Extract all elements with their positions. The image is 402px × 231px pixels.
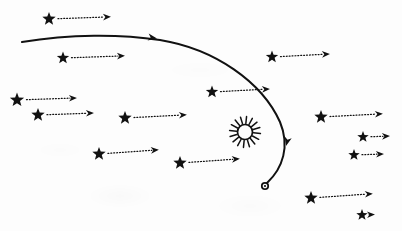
star-marker bbox=[173, 156, 240, 169]
star-glyph bbox=[31, 108, 44, 121]
star-marker bbox=[266, 51, 330, 63]
proper-motion-arrow bbox=[71, 53, 125, 61]
star-glyph bbox=[357, 131, 368, 142]
proper-motion-arrowhead bbox=[86, 110, 94, 117]
proper-motion-arrow bbox=[47, 110, 94, 118]
sun-ray bbox=[247, 140, 249, 147]
star-marker bbox=[348, 149, 384, 160]
proper-motion-arrowhead bbox=[365, 190, 373, 197]
proper-motion-dotted-line bbox=[330, 114, 376, 116]
star-glyph bbox=[356, 209, 367, 220]
sun-ray bbox=[249, 118, 252, 124]
proper-motion-arrow bbox=[280, 51, 330, 60]
sun-ray bbox=[250, 139, 254, 144]
star-marker bbox=[356, 209, 375, 220]
proper-motion-arrow bbox=[189, 156, 240, 166]
sun-ray bbox=[238, 139, 241, 145]
comet-nucleus bbox=[262, 183, 268, 189]
sun-core bbox=[238, 125, 253, 140]
proper-motion-dotted-line bbox=[362, 154, 377, 155]
proper-motion-arrowhead bbox=[375, 110, 383, 117]
sun-ray bbox=[252, 122, 257, 126]
proper-motion-dotted-line bbox=[26, 98, 69, 100]
proper-motion-dotted-line bbox=[71, 56, 117, 58]
star-glyph bbox=[10, 93, 24, 107]
sun-ray bbox=[235, 120, 239, 125]
star-glyph bbox=[348, 149, 359, 160]
proper-motion-arrow bbox=[362, 151, 384, 158]
star-glyph bbox=[206, 86, 218, 98]
proper-motion-arrowhead bbox=[322, 51, 330, 58]
proper-motion-dotted-line bbox=[280, 54, 322, 56]
star-marker bbox=[42, 12, 111, 25]
proper-motion-arrowhead bbox=[179, 111, 187, 118]
star-marker bbox=[357, 131, 390, 142]
proper-motion-dotted-line bbox=[189, 159, 233, 162]
proper-motion-arrow bbox=[367, 211, 375, 218]
star-glyph bbox=[314, 110, 327, 123]
proper-motion-arrow bbox=[26, 95, 77, 103]
comet-trajectory-diagram bbox=[0, 0, 402, 231]
proper-motion-arrowhead bbox=[262, 86, 270, 93]
star-glyph bbox=[57, 52, 69, 64]
star-glyph bbox=[266, 51, 278, 63]
sun-ray bbox=[243, 140, 244, 147]
star-glyph bbox=[92, 147, 105, 160]
sun-ray bbox=[233, 137, 238, 141]
star-marker bbox=[304, 190, 373, 203]
sun-ray bbox=[230, 134, 237, 136]
proper-motion-arrow bbox=[330, 110, 383, 119]
star-marker bbox=[10, 93, 77, 107]
proper-motion-arrow bbox=[134, 111, 187, 120]
sun-ray bbox=[230, 130, 237, 131]
star-marker bbox=[118, 111, 187, 124]
sun-ray bbox=[252, 136, 258, 139]
proper-motion-dotted-line bbox=[58, 17, 104, 19]
proper-motion-dotted-line bbox=[134, 115, 180, 117]
star-marker bbox=[31, 108, 94, 121]
proper-motion-arrow bbox=[371, 133, 390, 140]
sun-ray bbox=[231, 125, 237, 128]
comet-nucleus-dot bbox=[264, 185, 266, 187]
sun-ray bbox=[246, 117, 247, 124]
sun-symbol bbox=[230, 117, 261, 148]
star-glyph bbox=[304, 191, 317, 204]
proper-motion-dotted-line bbox=[320, 194, 366, 197]
diagram-canvas bbox=[0, 0, 402, 231]
proper-motion-dotted-line bbox=[108, 150, 152, 153]
proper-motion-dotted-line bbox=[220, 89, 262, 91]
star-glyph bbox=[173, 156, 186, 169]
star-marker bbox=[314, 110, 383, 123]
proper-motion-arrow bbox=[58, 14, 111, 22]
sun-ray bbox=[253, 128, 260, 130]
proper-motion-arrowhead bbox=[367, 211, 375, 218]
star-glyph bbox=[42, 12, 55, 25]
proper-motion-arrow bbox=[320, 190, 373, 200]
star-marker bbox=[92, 147, 159, 160]
proper-motion-dotted-line bbox=[47, 113, 87, 114]
proper-motion-arrowhead bbox=[103, 14, 111, 21]
sun-ray bbox=[241, 117, 243, 124]
proper-motion-arrow bbox=[108, 147, 159, 157]
sun-ray bbox=[253, 133, 260, 134]
star-marker bbox=[57, 52, 125, 64]
star-glyph bbox=[118, 111, 131, 124]
